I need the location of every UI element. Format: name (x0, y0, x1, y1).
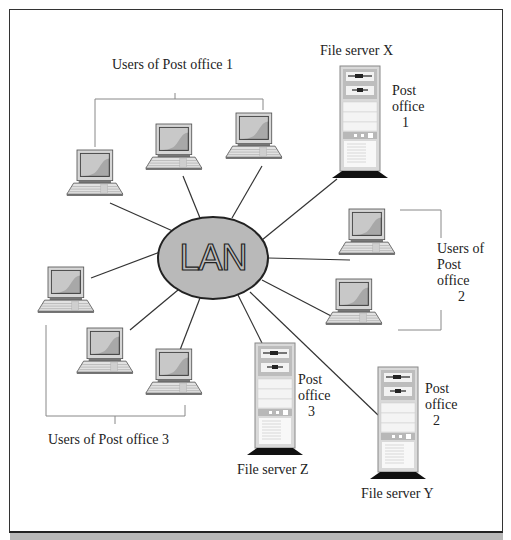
laptop-po2-b (326, 279, 382, 325)
server-z-po-line2: office (298, 388, 330, 404)
laptop-po1-c (226, 113, 282, 159)
server-z-po-num: 3 (308, 404, 315, 420)
lan-label: LAN (168, 238, 258, 278)
server-y-po-num: 2 (433, 413, 440, 429)
users-po2-label-line4: 2 (458, 289, 465, 305)
server-x-po-line2: office (392, 99, 424, 115)
server-z-po-line1: Post (298, 372, 322, 388)
server-y-label: File server Y (361, 486, 434, 502)
users-po2-label-line3: office (437, 273, 469, 289)
users-po3-label: Users of Post office 3 (48, 432, 169, 448)
server-x-label: File server X (320, 43, 393, 59)
users-po1-label: Users of Post office 1 (112, 57, 233, 73)
server-z-label: File server Z (237, 462, 309, 478)
bracket-po2 (400, 210, 441, 238)
server-z-icon (247, 343, 303, 455)
server-x-po-num: 1 (402, 115, 409, 131)
users-po2-label-line2: Post (437, 257, 461, 273)
server-x-icon (332, 66, 388, 178)
server-y-icon (370, 367, 426, 479)
laptop-po1-a (67, 150, 123, 196)
laptop-po3-b (77, 328, 133, 374)
laptop-po2-a (339, 209, 395, 255)
laptop-po3-c (146, 349, 202, 395)
laptop-po3-a (38, 267, 94, 313)
laptop-po1-b (146, 124, 202, 170)
users-po2-label-line1: Users of (437, 241, 484, 257)
server-y-po-line1: Post (425, 381, 449, 397)
server-y-po-line2: office (425, 397, 457, 413)
server-x-po-line1: Post (392, 83, 416, 99)
